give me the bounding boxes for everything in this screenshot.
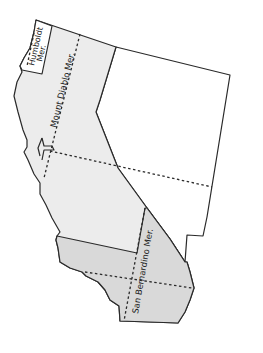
survey-meridians-map: Humboldt Mer. Mount Diablo Mer. San Bern… [0,0,263,353]
